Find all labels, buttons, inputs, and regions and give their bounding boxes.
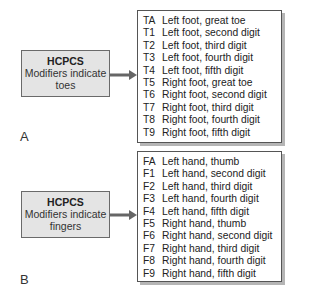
table-row: F4Left hand, fifth digit xyxy=(143,206,281,218)
arrow-right-icon xyxy=(110,210,137,220)
table-row: F8Right hand, fourth digit xyxy=(143,255,281,267)
table-row: T2Left foot, third digit xyxy=(143,40,281,52)
table-row: F7Right hand, third digit xyxy=(143,243,281,255)
hcpcs-box-fingers: HCPCS Modifiers indicate fingers xyxy=(21,191,110,238)
table-row: T3Left foot, fourth digit xyxy=(143,52,281,64)
hcpcs-box-toes: HCPCS Modifiers indicate toes xyxy=(21,50,110,97)
table-row: TALeft foot, great toe xyxy=(143,15,281,27)
table-row: F5Right hand, thumb xyxy=(143,218,281,230)
box-subtitle-line2: fingers xyxy=(22,220,109,232)
box-title: HCPCS xyxy=(22,55,109,67)
modifier-table-toes: TALeft foot, great toe T1Left foot, seco… xyxy=(137,10,282,143)
table-row: FALeft hand, thumb xyxy=(143,156,281,168)
table-row: T5Right foot, great toe xyxy=(143,77,281,89)
table-row: T8Right foot, fourth digit xyxy=(143,114,281,126)
panel-label-a: A xyxy=(20,129,29,144)
table-row: F1Left hand, second digit xyxy=(143,168,281,180)
panel-label-b: B xyxy=(20,272,29,287)
table-row: T1Left foot, second digit xyxy=(143,27,281,39)
table-row: F3Left hand, fourth digit xyxy=(143,193,281,205)
box-subtitle-line1: Modifiers indicate xyxy=(22,67,109,79)
box-title: HCPCS xyxy=(22,196,109,208)
table-row: F6Right hand, second digit xyxy=(143,230,281,242)
table-row: F2Left hand, third digit xyxy=(143,181,281,193)
table-row: T4Left foot, fifth digit xyxy=(143,65,281,77)
table-row: T6Right foot, second digit xyxy=(143,89,281,101)
modifier-table-fingers: FALeft hand, thumb F1Left hand, second d… xyxy=(137,151,282,282)
table-row: F9Right hand, fifth digit xyxy=(143,268,281,280)
arrow-right-icon xyxy=(110,70,137,80)
box-subtitle-line2: toes xyxy=(22,79,109,91)
table-row: T9Right foot, fifth digit xyxy=(143,127,281,139)
table-row: T7Right foot, third digit xyxy=(143,102,281,114)
box-subtitle-line1: Modifiers indicate xyxy=(22,208,109,220)
